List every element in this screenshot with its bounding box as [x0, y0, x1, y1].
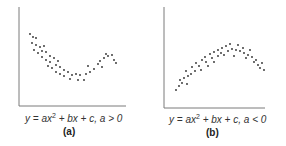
caption-b-prefix: y = ax — [169, 114, 196, 125]
data-point — [69, 78, 71, 80]
data-point — [261, 62, 263, 64]
data-point — [239, 50, 241, 52]
data-point — [220, 52, 222, 54]
caption-a: y = ax2 + bx + c, a > 0 — [25, 112, 122, 124]
data-point — [243, 52, 245, 54]
data-point — [71, 74, 73, 76]
data-point — [45, 59, 47, 61]
data-point — [115, 62, 117, 64]
data-point — [194, 70, 196, 72]
data-point — [195, 62, 197, 64]
data-point — [223, 54, 225, 56]
data-point — [259, 67, 261, 69]
data-point — [89, 71, 91, 73]
data-point — [53, 57, 55, 59]
data-point — [97, 63, 99, 65]
data-point — [229, 43, 231, 45]
data-point — [204, 56, 206, 58]
data-point — [187, 75, 189, 77]
data-point — [175, 89, 177, 91]
data-point — [33, 49, 35, 51]
data-point — [211, 57, 213, 59]
data-point — [87, 65, 89, 67]
data-point — [179, 79, 181, 81]
data-point — [235, 49, 237, 51]
data-point — [55, 64, 57, 66]
data-point — [111, 54, 113, 56]
data-point — [29, 33, 31, 35]
data-point — [185, 70, 187, 72]
data-point — [200, 69, 202, 71]
data-point — [35, 44, 37, 46]
data-point — [209, 53, 211, 55]
data-point — [107, 55, 109, 57]
data-point — [201, 59, 203, 61]
data-point — [63, 69, 65, 71]
data-point — [113, 59, 115, 61]
data-point — [251, 56, 253, 58]
chart-b — [164, 7, 265, 108]
data-point — [249, 49, 251, 51]
data-point — [181, 82, 183, 84]
data-point — [77, 79, 79, 81]
data-point — [35, 37, 37, 39]
data-point — [217, 49, 219, 51]
data-point — [85, 73, 87, 75]
data-point — [245, 57, 247, 59]
data-point — [32, 36, 34, 38]
caption-a-suffix: + bx + c, a > 0 — [56, 113, 122, 124]
data-point — [205, 61, 207, 63]
data-point — [213, 51, 215, 53]
data-point — [79, 74, 81, 76]
caption-a-prefix: y = ax — [25, 113, 52, 124]
data-point — [63, 75, 65, 77]
scatter-points-a — [29, 33, 117, 81]
data-point — [75, 73, 77, 75]
label-a: (a) — [63, 126, 75, 137]
data-point — [39, 46, 41, 48]
data-point — [253, 61, 255, 63]
data-point — [31, 42, 33, 44]
data-point — [49, 55, 51, 57]
data-point — [237, 44, 239, 46]
data-point — [105, 53, 107, 55]
data-point — [191, 66, 193, 68]
data-point — [101, 66, 103, 68]
data-point — [47, 65, 49, 67]
data-point — [263, 69, 265, 71]
data-point — [37, 52, 39, 54]
data-point — [43, 45, 45, 47]
caption-b-suffix: + bx + c, a < 0 — [200, 114, 266, 125]
data-point — [45, 51, 47, 53]
data-point — [93, 68, 95, 70]
data-point — [186, 83, 188, 85]
data-point — [257, 64, 259, 66]
data-point — [103, 57, 105, 59]
data-point — [227, 50, 229, 52]
data-point — [83, 79, 85, 81]
data-point — [49, 61, 51, 63]
data-point — [67, 71, 69, 73]
data-point — [99, 60, 101, 62]
data-point — [207, 65, 209, 67]
data-point — [41, 56, 43, 58]
data-point — [242, 47, 244, 49]
data-point — [57, 60, 59, 62]
label-b: (b) — [206, 127, 219, 138]
data-point — [190, 73, 192, 75]
data-point — [225, 45, 227, 47]
data-point — [51, 67, 53, 69]
data-point — [59, 73, 61, 75]
data-point — [213, 61, 215, 63]
scatter-points-b — [175, 43, 265, 91]
data-point — [59, 66, 61, 68]
data-point — [233, 55, 235, 57]
data-point — [198, 65, 200, 67]
data-point — [221, 47, 223, 49]
caption-b: y = ax2 + bx + c, a < 0 — [169, 113, 266, 125]
data-point — [217, 55, 219, 57]
data-point — [231, 48, 233, 50]
data-point — [247, 54, 249, 56]
data-point — [183, 77, 185, 79]
data-point — [55, 71, 57, 73]
